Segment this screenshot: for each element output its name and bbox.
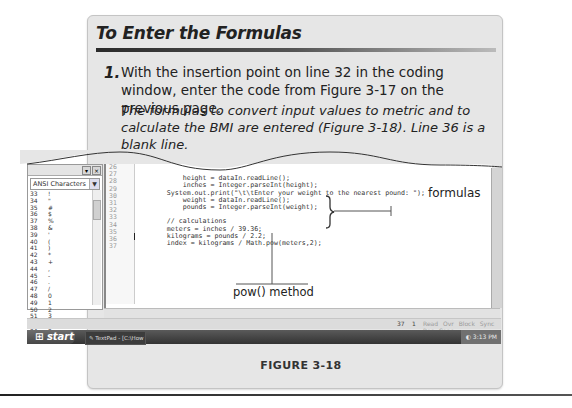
taskbar: ⊞ start ✎ TextPad - [C:\How To... ◐ 3:13… [27, 330, 501, 344]
panel-title: To Enter the Formulas [96, 23, 302, 43]
start-button[interactable]: ⊞ start [27, 330, 75, 344]
code-line: pounds = Integer.parseInt(weight); [143, 204, 425, 211]
page-divider [0, 394, 572, 396]
status-line: 37 [397, 320, 405, 327]
step-result: The formulas to convert input values to … [121, 102, 496, 153]
list-item[interactable]: 480 [30, 293, 90, 300]
list-item[interactable]: 41) [30, 245, 90, 252]
ansi-characters-panel: ▾ × ANSI Characters ▼ 33! 34" 35# 36$ 37… [27, 164, 103, 310]
taskbar-item-textpad[interactable]: ✎ TextPad - [C:\How To... [85, 331, 146, 345]
list-item[interactable]: 502 [30, 307, 90, 314]
callout-formulas: formulas [428, 186, 481, 200]
start-label: start [47, 331, 74, 342]
list-item[interactable]: 36$ [30, 211, 90, 218]
list-item[interactable]: 43+ [30, 259, 90, 266]
list-item[interactable]: 45- [30, 273, 90, 280]
clock: 3:13 PM [473, 333, 497, 340]
dropdown-icon[interactable]: ▾ [82, 166, 91, 175]
ansi-list[interactable]: 33! 34" 35# 36$ 37% 38& 39' 40( 41) 42* … [30, 191, 90, 334]
vertical-scrollbar[interactable] [491, 168, 502, 308]
code-line: index = kilograms / Math.pow(meters,2); [143, 240, 425, 247]
step-number: 1. [104, 64, 120, 82]
close-icon[interactable]: × [92, 166, 101, 175]
list-item[interactable]: 33! [30, 191, 90, 198]
figure-caption: FIGURE 3-18 [0, 359, 572, 372]
list-item[interactable]: 35# [30, 205, 90, 212]
text-cursor [134, 233, 135, 240]
chevron-down-icon[interactable]: ▼ [89, 179, 99, 189]
status-column: 1 [412, 320, 416, 327]
scroll-thumb[interactable] [93, 200, 101, 220]
list-item[interactable]: 491 [30, 300, 90, 307]
callout-pow-method: pow() method [233, 285, 314, 299]
list-item[interactable]: 38& [30, 225, 90, 232]
ansi-dropdown[interactable]: ANSI Characters ▼ [30, 178, 100, 190]
list-item[interactable]: 39' [30, 232, 90, 239]
tray-icon[interactable]: ◐ [466, 333, 473, 340]
line-number: 37 [106, 243, 134, 250]
ansi-panel-titlebar: ▾ × [28, 165, 102, 176]
line-number-gutter: 26 27 28 29 30 31 32 33 34 35 36 37 [106, 164, 135, 304]
ansi-dropdown-value: ANSI Characters [33, 180, 86, 188]
windows-logo-icon: ⊞ [35, 331, 47, 342]
code-text[interactable]: height = dataIn.readLine(); inches = Int… [143, 168, 425, 247]
list-item[interactable]: 37% [30, 218, 90, 225]
list-item[interactable]: 47/ [30, 286, 90, 293]
system-tray: ◐ 3:13 PM [461, 330, 501, 344]
status-bar: 37 1 Read Ovr Block Sync Rec Caps [27, 318, 501, 329]
list-item[interactable]: 34" [30, 198, 90, 205]
task-label: TextPad - [C:\How To... [95, 335, 146, 341]
ansi-scrollbar[interactable] [92, 190, 101, 305]
list-item[interactable]: 44, [30, 266, 90, 273]
list-item[interactable]: 40( [30, 239, 90, 246]
list-item[interactable]: 46. [30, 279, 90, 286]
horizontal-scrollbar[interactable] [104, 308, 500, 318]
title-divider [96, 48, 496, 52]
list-item[interactable]: 42* [30, 252, 90, 259]
